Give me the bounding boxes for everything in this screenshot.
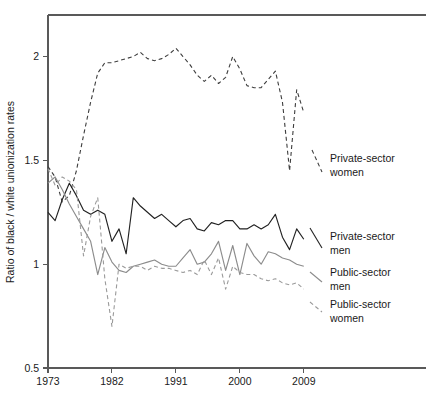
chart-legend: Private-sectorwomenPrivate-sectormenPubl…: [310, 150, 395, 324]
legend-swatch-private-sector-men: [310, 228, 322, 248]
legend-label-line2: women: [329, 312, 364, 324]
series-line-public-sector-women: [48, 169, 304, 327]
legend-label-line1: Private-sector: [330, 152, 395, 164]
y-tick-label: 1.5: [24, 154, 39, 166]
unionization-ratio-line-chart: 0.511.52 19731982199120002009 Ratio of b…: [0, 0, 428, 420]
legend-label-line1: Public-sector: [330, 298, 391, 310]
series-line-private-sector-women: [48, 48, 304, 202]
legend-label-line1: Public-sector: [330, 266, 391, 278]
y-tick-label: 2: [33, 50, 39, 62]
legend-label-line2: men: [330, 280, 351, 292]
y-axis-ticks: 0.511.52: [24, 50, 48, 373]
legend-swatch-public-sector-women: [310, 302, 322, 312]
x-tick-label: 2009: [292, 375, 316, 387]
chart-container: 0.511.52 19731982199120002009 Ratio of b…: [0, 0, 428, 420]
series-lines: [48, 48, 304, 326]
x-tick-label: 1982: [100, 375, 124, 387]
legend-swatch-private-sector-women: [312, 150, 322, 172]
legend-swatch-public-sector-men: [310, 272, 322, 282]
y-axis-title: Ratio of black / white unionization rate…: [4, 101, 16, 283]
x-tick-label: 2000: [228, 375, 252, 387]
x-tick-label: 1973: [36, 375, 60, 387]
x-axis-ticks: 19731982199120002009: [36, 368, 315, 387]
y-tick-label: 1: [33, 258, 39, 270]
legend-label-line1: Private-sector: [330, 230, 395, 242]
x-tick-label: 1991: [164, 375, 188, 387]
legend-label-line2: men: [330, 244, 351, 256]
legend-label-line2: women: [329, 166, 364, 178]
y-tick-label: 0.5: [24, 362, 39, 374]
